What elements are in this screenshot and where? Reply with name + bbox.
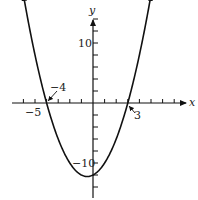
parabola-curve	[23, 0, 151, 177]
root-label-3: 3	[134, 110, 141, 121]
root-label-neg4: −4	[50, 82, 66, 93]
parabola-plot	[0, 0, 198, 200]
x-axis-label: x	[189, 97, 195, 108]
x-axis	[12, 99, 186, 103]
y-tick-label-10: 10	[78, 38, 92, 49]
y-axis-label: y	[89, 5, 95, 16]
x-tick-label-neg5: −5	[25, 107, 41, 118]
y-tick-label-neg10: −10	[72, 158, 95, 169]
